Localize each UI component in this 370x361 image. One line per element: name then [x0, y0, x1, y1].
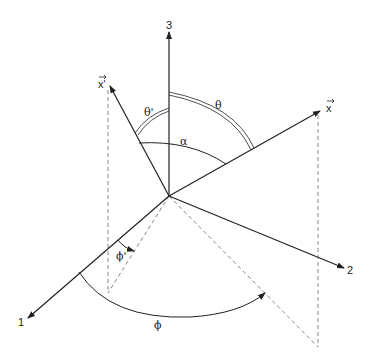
phi-label: ϕ [154, 319, 162, 332]
vector-x-prime-label: x' [98, 78, 106, 90]
axes [28, 32, 344, 318]
projection-lines [108, 90, 318, 347]
diagram-svg: 3 1 2 x' x θ θ' α ϕ' ϕ [0, 0, 370, 361]
axis-3-label: 3 [166, 19, 172, 31]
theta-prime-label: θ' [144, 106, 154, 119]
vector-x-line [169, 111, 320, 196]
phi-prime-label: ϕ' [116, 250, 127, 263]
axis-1-label: 1 [18, 316, 24, 328]
vector-x-label: x [326, 102, 332, 114]
x-prime-ground-projection [108, 196, 169, 293]
coordinate-diagram: 3 1 2 x' x θ θ' α ϕ' ϕ [0, 0, 370, 361]
vector-x-prime-line [110, 86, 169, 196]
x-ground-projection [169, 196, 318, 347]
alpha-label: α [180, 135, 188, 148]
axis-2-label: 2 [347, 264, 353, 276]
axis-1-line [28, 196, 169, 318]
phi-arc [79, 272, 265, 317]
theta-label: θ [215, 99, 222, 112]
